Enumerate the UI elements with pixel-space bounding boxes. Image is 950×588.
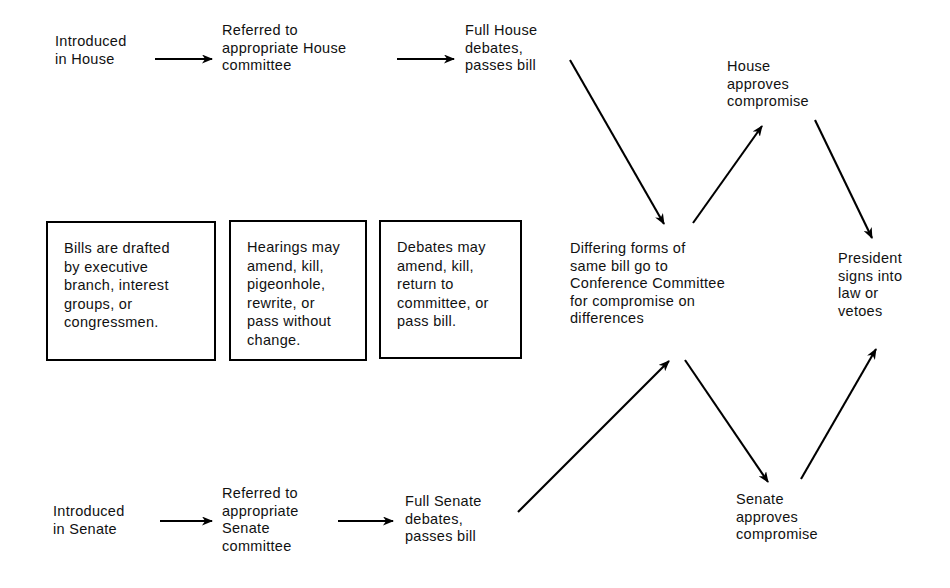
box-bills-drafted: Bills are drafted by executive branch, i…	[46, 221, 216, 361]
edge-senate-to-conference	[518, 361, 669, 512]
node-senate-approves-compromise: Senate approves compromise	[736, 491, 866, 544]
edge-house-to-conference	[570, 60, 664, 224]
node-label-hearings-may: Hearings may amend, kill, pigeonhole, re…	[247, 238, 359, 349]
node-conference-committee: Differing forms of same bill go to Confe…	[570, 240, 785, 328]
node-referred-senate-committee: Referred to appropriate Senate committee	[222, 485, 372, 555]
node-label-bills-drafted: Bills are drafted by executive branch, i…	[64, 239, 208, 332]
edge-senate-approves-to-president	[801, 349, 876, 479]
box-debates-may: Debates may amend, kill, return to commi…	[379, 220, 522, 359]
flowchart-canvas: Introduced in HouseReferred to appropria…	[0, 0, 950, 588]
node-label-debates-may: Debates may amend, kill, return to commi…	[397, 238, 514, 331]
box-hearings-may: Hearings may amend, kill, pigeonhole, re…	[229, 220, 367, 361]
node-house-approves-compromise: House approves compromise	[727, 58, 857, 111]
node-introduced-house: Introduced in House	[55, 33, 170, 68]
edge-conference-to-house-approves	[693, 126, 762, 223]
node-referred-house-committee: Referred to appropriate House committee	[222, 22, 402, 75]
node-full-senate-debates: Full Senate debates, passes bill	[405, 493, 525, 546]
node-introduced-senate: Introduced in Senate	[53, 503, 173, 538]
node-president-signs: President signs into law or vetoes	[838, 250, 948, 320]
edge-house-approves-to-president	[815, 120, 872, 238]
edge-conference-to-senate-approves	[685, 360, 768, 482]
node-full-house-debates: Full House debates, passes bill	[465, 22, 585, 75]
